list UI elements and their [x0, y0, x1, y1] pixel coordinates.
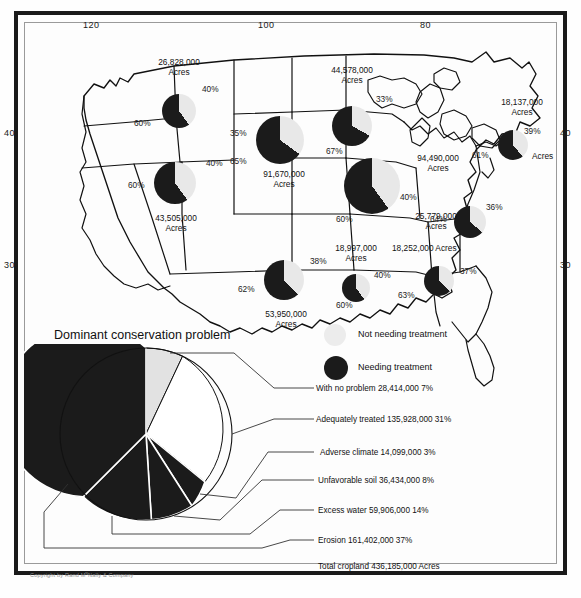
copyright-notice: Copyright by Rand MᴺNally & Company — [30, 572, 134, 578]
pie-slice-group — [424, 266, 454, 296]
stray-acres-label: Acres — [532, 152, 553, 162]
map-page: 120 100 80 40 30 40 30 — [0, 0, 581, 598]
region-pct-not-needing: 33% — [376, 94, 393, 104]
region-acres-label: 94,490,000Acres — [392, 154, 484, 174]
pie-slice-group — [154, 162, 196, 204]
region-acres-label: 43,505,000Acres — [130, 214, 222, 234]
callout-with-no-problem: With no problem 28,414,000 7% — [316, 384, 433, 393]
region-pct-not-needing: 40% — [400, 192, 417, 202]
region-pct-needing: 61% — [472, 150, 489, 160]
pie-slice-group — [342, 274, 370, 302]
callout-adequately-treated: Adequately treated 135,928,000 31% — [316, 415, 451, 424]
latitude-tick-right-40: 40 — [560, 128, 571, 138]
region-pct-not-needing: 40% — [202, 84, 219, 94]
region-pct-needing: 65% — [230, 156, 247, 166]
legend-swatch-not-needing — [324, 324, 346, 346]
region-pct-not-needing: 37% — [460, 266, 477, 276]
region-acres-label: 18,997,000Acres — [310, 244, 402, 264]
callout-excess-water: Excess water 59,906,000 14% — [318, 506, 429, 515]
pie-chart-title: Dominant conservation problem — [54, 328, 230, 342]
region-pct-needing: 60% — [134, 118, 151, 128]
pie-slice-group — [264, 260, 304, 300]
latitude-tick-left-30: 30 — [4, 260, 15, 270]
map-layer: 26,828,000Acres 40% 60% 43,505,000Acres … — [24, 22, 557, 564]
region-pct-needing: 60% — [336, 300, 353, 310]
region-pct-not-needing: 40% — [374, 270, 391, 280]
region-pct-not-needing: 35% — [230, 128, 247, 138]
latitude-tick-right-30: 30 — [560, 260, 571, 270]
region-acres-label: 44,578,000Acres — [306, 66, 398, 86]
callout-total-cropland: Total cropland 436,185,000 Acres — [318, 562, 440, 571]
region-pct-needing: 63% — [398, 290, 415, 300]
callout-adverse-climate: Adverse climate 14,099,000 3% — [320, 448, 436, 457]
region-acres-label: 18,137,000Acres — [476, 98, 568, 118]
region-acres-label: 53,950,000Acres — [240, 310, 332, 330]
pie-slice-group — [162, 94, 196, 128]
region-pct-needing: 67% — [326, 146, 343, 156]
region-pct-needing: 64% — [430, 214, 447, 224]
latitude-tick-left-40: 40 — [4, 128, 15, 138]
legend-label-not-needing: Not needing treatment — [358, 329, 447, 339]
region-pct-not-needing: 36% — [486, 202, 503, 212]
region-acres-label: 26,828,000Acres — [134, 58, 224, 78]
region-acres-label: 91,670,000Acres — [238, 170, 330, 190]
region-acres-label: 18,252,000 Acres — [392, 244, 457, 254]
region-pct-needing: 60% — [128, 180, 145, 190]
pie-slice-group — [256, 116, 304, 164]
callout-erosion: Erosion 161,402,000 37% — [318, 536, 412, 545]
region-pct-needing: 60% — [336, 214, 353, 224]
region-pct-not-needing: 40% — [206, 158, 223, 168]
callout-unfavorable-soil: Unfavorable soil 36,434,000 8% — [318, 476, 434, 485]
dominant-problem-pie-chart — [24, 344, 557, 564]
region-pct-needing: 62% — [238, 284, 255, 294]
region-pct-not-needing: 39% — [524, 126, 541, 136]
pie-slice-group — [332, 106, 372, 146]
